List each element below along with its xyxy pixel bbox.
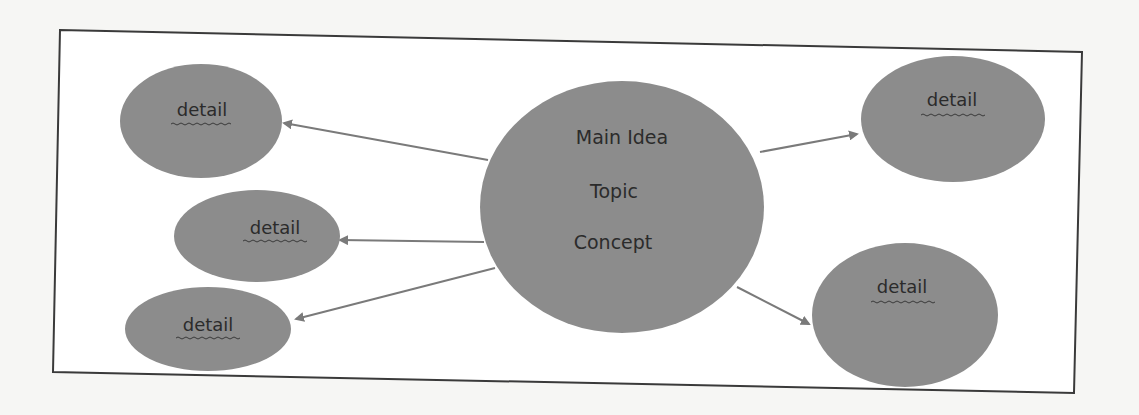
detail-node-bottom-right: detail: [812, 243, 998, 387]
detail-label: detail: [183, 314, 234, 335]
central-node-line-2: Topic: [589, 180, 638, 202]
detail-node-top-right: detail: [861, 56, 1045, 182]
detail-label: detail: [177, 99, 228, 120]
detail-node-bottom-left: detail: [125, 287, 291, 371]
central-node: Main Idea Topic Concept: [480, 81, 764, 333]
concept-map-diagram: Main Idea Topic Concept detail detail de…: [0, 0, 1139, 415]
central-node-line-3: Concept: [574, 231, 653, 253]
detail-label: detail: [877, 276, 928, 297]
detail-label: detail: [927, 89, 978, 110]
detail-label: detail: [250, 217, 301, 238]
central-node-line-1: Main Idea: [576, 126, 668, 148]
detail-node-middle-left: detail: [174, 190, 340, 282]
detail-node-top-left: detail: [120, 64, 282, 178]
